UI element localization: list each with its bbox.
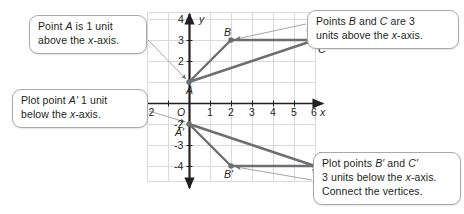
x-tick-4: 4 (270, 106, 276, 118)
x-tick-3: 3 (249, 106, 255, 118)
callout-plot-a-prime-line-1: Plot point A′ 1 unit (21, 94, 140, 108)
callout-plot-b-prime-c-prime-line-3: Connect the vertices. (322, 185, 453, 199)
origin-label: O (177, 106, 185, 118)
x-tick-6: 6 (311, 106, 317, 118)
callout-plot-b-prime-c-prime: Plot points B′ and C′ 3 units below the … (313, 152, 461, 205)
point-label-b: B (224, 26, 231, 38)
y-tick-4: 4 (178, 13, 184, 25)
point-label-a: A (186, 84, 193, 96)
x-tick-2: 2 (228, 106, 234, 118)
callout-points-b-c-line-1: Points B and C are 3 (316, 15, 451, 29)
callout-plot-a-prime-line-2: below the x-axis. (21, 108, 140, 122)
y-tick-neg4: -4 (174, 160, 183, 172)
x-tick-1: 1 (207, 106, 213, 118)
y-tick-neg3: -3 (174, 139, 183, 151)
y-axis-label: y (199, 13, 204, 25)
callout-plot-b-prime-c-prime-line-1: Plot points B′ and C′ (322, 157, 453, 171)
x-tick-5: 5 (291, 106, 297, 118)
leader-callout-points-b-c-to-b (236, 24, 306, 39)
y-tick-2: 2 (178, 55, 184, 67)
x-axis-label: x (320, 106, 325, 118)
point-label-a-prime: A′ (175, 126, 184, 138)
callout-points-b-c-line-2: units above the x-axis. (316, 29, 451, 43)
callout-point-a: Point A is 1 unit above the x-axis. (29, 15, 147, 54)
callout-points-b-c: Points B and C are 3 units above the x-a… (307, 10, 459, 49)
point-label-b-prime: B′ (224, 168, 233, 180)
figure-canvas: y x O 4 3 2 -2 -3 -4 -2 1 2 3 4 5 6 A B … (0, 0, 464, 214)
callout-point-a-line-2: above the x-axis. (38, 34, 139, 48)
callout-plot-b-prime-c-prime-line-2: 3 units below the x-axis. (322, 171, 453, 185)
callout-plot-a-prime: Plot point A′ 1 unit below the x-axis. (12, 89, 148, 128)
y-tick-3: 3 (178, 34, 184, 46)
callout-point-a-line-1: Point A is 1 unit (38, 20, 139, 34)
